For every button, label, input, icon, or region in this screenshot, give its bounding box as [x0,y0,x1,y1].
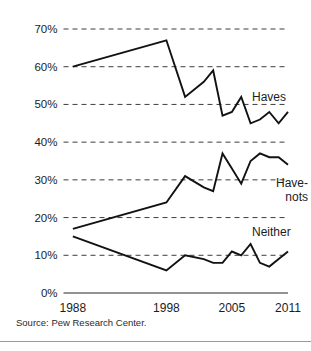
y-tick-label-60pct: 60% [34,61,57,73]
chart-figure: 0%10%20%30%40%50%60%70% 1988199820052011… [0,0,311,351]
x-tick-label-1988: 1988 [60,301,87,315]
y-tick-label-0pct: 0% [41,287,58,299]
x-axis-tick-labels: 1988199820052011 [60,301,302,315]
y-tick-label-10pct: 10% [34,249,57,261]
y-tick-label-30pct: 30% [34,174,57,186]
y-tick-label-50pct: 50% [34,98,57,110]
x-tick-label-1998: 1998 [153,301,180,315]
y-tick-label-40pct: 40% [34,136,57,148]
y-axis-tick-labels: 0%10%20%30%40%50%60%70% [34,23,57,299]
x-tick-label-2011: 2011 [275,301,301,315]
series-label-have-nots-line2: nots [285,190,308,204]
series-label-neither: Neither [252,225,291,239]
x-tick-label-2005: 2005 [219,301,246,315]
y-tick-label-70pct: 70% [34,23,57,35]
source-note: Source: Pew Research Center. [16,317,146,328]
series-line-neither [73,236,288,270]
series-line-haves [73,40,288,123]
line-chart: 0%10%20%30%40%50%60%70% 1988199820052011… [0,0,311,351]
series-labels-group: HavesHave-notsNeither [252,90,308,239]
series-label-have-nots-line1: Have- [276,176,308,190]
y-tick-label-20pct: 20% [34,212,57,224]
series-label-haves: Haves [252,90,286,104]
